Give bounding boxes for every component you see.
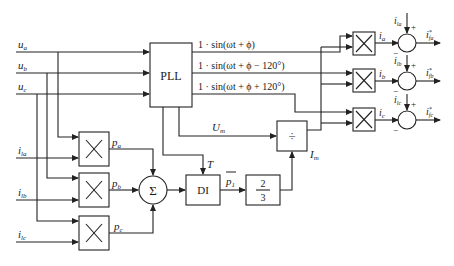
multiplier-pb [79, 173, 109, 207]
label-pc: pc [113, 220, 124, 234]
gain-den: 3 [261, 192, 266, 203]
control-block-diagram: ua ub uc ila ilb ilc PLL 1 · sin(ωt + ϕ)… [0, 0, 454, 266]
minus-a: − [393, 48, 398, 58]
divide-symbol: ÷ [288, 128, 295, 143]
label-ic: ic [379, 107, 386, 120]
plus-a: + [411, 22, 416, 32]
label-uc: uc [18, 80, 28, 94]
label-t: T [207, 158, 214, 170]
label-ila-right: ila [394, 15, 401, 27]
pll-out-b: 1 · sin(ωt + ϕ − 120°) [198, 60, 285, 72]
multiplier-pc [79, 216, 109, 250]
label-ub: ub [18, 59, 28, 73]
plus-c: + [411, 99, 416, 109]
plus-b: + [411, 60, 416, 70]
label-ifb: i*fb [426, 67, 433, 79]
di-label: DI [197, 184, 209, 196]
multiplier-ia [353, 32, 375, 55]
pll-out-c: 1 · sin(ωt + ϕ + 120°) [198, 81, 285, 93]
label-ua: ua [18, 38, 28, 52]
label-pb: pb [111, 177, 122, 191]
label-ilc: ilc [18, 228, 27, 242]
label-ib: ib [379, 68, 386, 81]
sum-c [398, 111, 416, 129]
minus-b: − [393, 86, 398, 96]
gain-num: 2 [261, 178, 266, 189]
label-ifc: i*fc [426, 106, 433, 118]
label-ia: ia [379, 30, 386, 43]
label-ila: ila [18, 144, 27, 158]
sum-a [398, 34, 416, 52]
label-im: Im [309, 148, 319, 162]
pll-label: PLL [160, 69, 181, 83]
minus-c: − [393, 125, 398, 135]
label-um: Um [212, 121, 225, 135]
multiplier-ib [353, 69, 375, 92]
sum-b [398, 72, 416, 90]
label-p1: p1 [225, 175, 235, 189]
pll-out-a: 1 · sin(ωt + ϕ) [198, 39, 255, 51]
label-pa: pa [111, 136, 122, 150]
label-ifa: i*fa [426, 29, 433, 41]
multiplier-pa [79, 132, 109, 166]
label-ilb: ilb [18, 186, 27, 200]
multiplier-ic [353, 108, 375, 131]
sum-symbol: Σ [149, 183, 157, 198]
